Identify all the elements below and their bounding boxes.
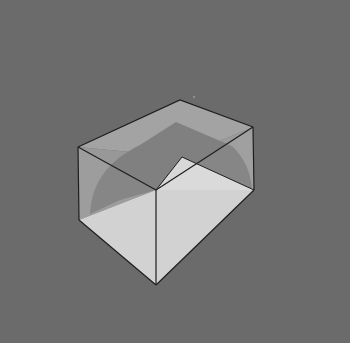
dust-speck xyxy=(193,96,195,98)
diagram-canvas: Transparent rectangular box in perspecti… xyxy=(0,0,350,343)
box-illustration xyxy=(0,0,350,343)
